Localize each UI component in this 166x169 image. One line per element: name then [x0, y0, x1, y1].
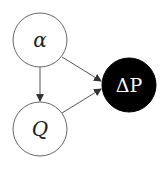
node-alpha-label: α [33, 28, 47, 52]
node-q: Q [13, 102, 67, 156]
edge-q-to-deltap [62, 89, 101, 113]
graphical-model-diagram: α Q ΔP [0, 0, 166, 169]
node-deltap: ΔP [102, 58, 156, 112]
node-alpha: α [13, 13, 67, 67]
node-q-label: Q [32, 117, 48, 141]
edge-alpha-to-deltap [62, 57, 101, 81]
node-deltap-label: ΔP [116, 74, 143, 96]
